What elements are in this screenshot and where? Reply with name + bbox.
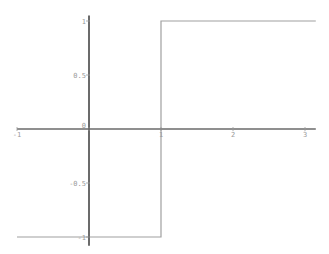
y-tick-label: -1 bbox=[78, 234, 86, 242]
x-tick-label: 3 bbox=[303, 131, 307, 139]
y-tick-label: -0.5 bbox=[69, 180, 86, 188]
step-function-plot: -1012310.5-0.5-1 bbox=[0, 0, 329, 254]
x-tick-label: 2 bbox=[231, 131, 235, 139]
y-tick-label: 1 bbox=[82, 18, 86, 26]
x-tick-label: 0 bbox=[82, 122, 86, 130]
x-tick-label: 1 bbox=[159, 131, 163, 139]
plot-axes bbox=[17, 16, 316, 246]
y-tick-label: 0.5 bbox=[73, 72, 86, 80]
x-tick-label: -1 bbox=[13, 131, 21, 139]
